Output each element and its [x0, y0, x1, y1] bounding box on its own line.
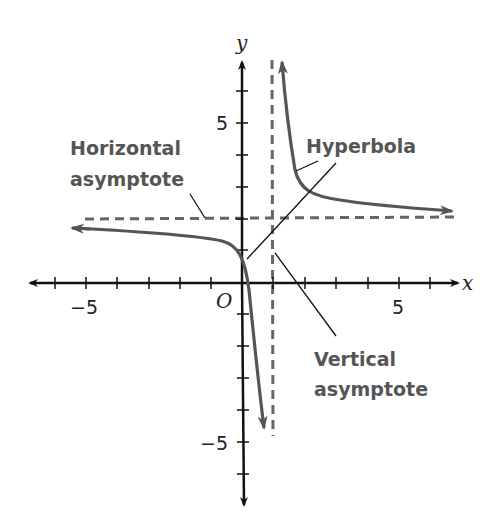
vertical-asymptote-label-line2: asymptote	[314, 378, 428, 400]
y-tick-label-5: 5	[216, 112, 228, 134]
hyperbola-left-arrow-tail	[72, 228, 90, 229]
hyperbola-diagram: y x O −5 5 5 −5 Horizontal asymptote Hyp…	[0, 0, 487, 531]
origin-label: O	[216, 289, 232, 313]
hyperbola-right-branch	[295, 170, 452, 211]
hyperbola-leader-long	[247, 163, 336, 259]
hyperbola-leader-short	[296, 161, 318, 171]
x-axis-label: x	[462, 271, 473, 295]
vertical-asymptote-label-line1: Vertical	[314, 348, 396, 370]
horizontal-asymptote	[85, 217, 455, 219]
horizontal-asymptote-leader	[190, 194, 205, 218]
x-tick-label-5: 5	[392, 296, 404, 318]
vertical-asymptote-leader	[275, 253, 336, 336]
y-axis-label: y	[235, 31, 248, 55]
hyperbola-right-arrow-top	[282, 62, 295, 170]
hyperbola-left-branch	[73, 228, 264, 428]
x-tick-label-neg5: −5	[70, 296, 98, 318]
vertical-asymptote	[272, 60, 273, 436]
hyperbola-label: Hyperbola	[306, 135, 416, 157]
x-axis	[30, 277, 458, 289]
horizontal-asymptote-label-line2: asymptote	[70, 168, 184, 190]
horizontal-asymptote-label-line1: Horizontal	[70, 137, 181, 159]
y-tick-label-neg5: −5	[200, 432, 228, 454]
